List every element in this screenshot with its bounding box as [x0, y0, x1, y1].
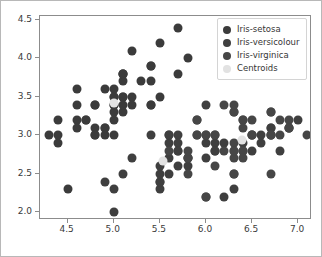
data-point: [118, 69, 127, 78]
x-tick-label: 5.5: [152, 224, 166, 234]
data-point: [229, 100, 238, 109]
data-point: [109, 208, 118, 217]
data-point: [183, 154, 192, 163]
data-point: [229, 146, 238, 155]
data-point: [266, 131, 275, 140]
data-point: [137, 77, 146, 86]
data-point: [201, 100, 210, 109]
y-tick-label: 3.5: [18, 91, 32, 101]
legend-marker-icon: [223, 65, 231, 73]
legend-item[interactable]: Iris-versicolour: [223, 36, 300, 49]
data-point: [174, 69, 183, 78]
centroid-marker: [109, 98, 118, 107]
data-point: [54, 131, 63, 140]
data-point: [174, 23, 183, 32]
legend-item-label: Centroids: [237, 64, 278, 73]
data-point: [100, 131, 109, 140]
data-point: [54, 115, 63, 124]
data-point: [109, 131, 118, 140]
y-tick-label: 2.5: [18, 168, 32, 178]
data-point: [238, 123, 247, 132]
data-point: [211, 146, 220, 155]
x-tick-mark: [297, 219, 298, 223]
data-point: [109, 115, 118, 124]
x-tick-mark: [251, 219, 252, 223]
data-point: [100, 85, 109, 94]
data-point: [72, 115, 81, 124]
data-point: [248, 115, 257, 124]
data-point: [229, 169, 238, 178]
data-point: [128, 46, 137, 55]
data-point: [248, 146, 257, 155]
data-point: [229, 185, 238, 194]
x-tick-mark: [67, 219, 68, 223]
legend: Iris-setosaIris-versicolourIris-virginic…: [217, 18, 307, 80]
legend-item[interactable]: Iris-virginica: [223, 49, 300, 62]
data-point: [220, 192, 229, 201]
data-point: [275, 131, 284, 140]
data-point: [248, 131, 257, 140]
data-point: [165, 146, 174, 155]
x-tick-label: 6.5: [244, 224, 258, 234]
y-tick-mark: [35, 19, 39, 20]
data-point: [201, 192, 210, 201]
data-point: [155, 177, 164, 186]
x-tick-mark: [113, 219, 114, 223]
data-point: [54, 139, 63, 148]
data-point: [211, 131, 220, 140]
data-point: [82, 115, 91, 124]
data-point: [100, 177, 109, 186]
data-point: [146, 77, 155, 86]
centroid-marker: [237, 135, 246, 144]
data-point: [72, 85, 81, 94]
x-tick-mark: [159, 219, 160, 223]
data-point: [72, 123, 81, 132]
legend-marker-icon: [223, 26, 231, 34]
data-point: [174, 162, 183, 171]
data-point: [63, 185, 72, 194]
data-point: [165, 131, 174, 140]
data-point: [146, 131, 155, 140]
y-tick-mark: [35, 173, 39, 174]
data-point: [294, 115, 303, 124]
data-point: [72, 100, 81, 109]
scatter-plot-figure: Iris-setosaIris-versicolourIris-virginic…: [0, 0, 322, 257]
data-point: [201, 139, 210, 148]
data-point: [183, 169, 192, 178]
data-point: [201, 131, 210, 140]
data-point: [174, 146, 183, 155]
data-point: [220, 100, 229, 109]
legend-marker-icon: [223, 39, 231, 47]
x-tick-label: 7.0: [290, 224, 304, 234]
data-point: [266, 108, 275, 117]
data-point: [284, 123, 293, 132]
data-point: [91, 100, 100, 109]
x-tick-label: 6.0: [198, 224, 212, 234]
y-tick-mark: [35, 96, 39, 97]
data-point: [45, 131, 54, 140]
x-tick-label: 5.0: [106, 224, 120, 234]
data-point: [109, 185, 118, 194]
data-point: [303, 131, 311, 140]
legend-item[interactable]: Centroids: [223, 62, 300, 75]
data-point: [192, 115, 201, 124]
y-tick-mark: [35, 134, 39, 135]
data-point: [91, 131, 100, 140]
data-point: [100, 123, 109, 132]
data-point: [229, 154, 238, 163]
data-point: [183, 54, 192, 63]
data-point: [192, 131, 201, 140]
y-tick-label: 2.0: [18, 206, 32, 216]
data-point: [183, 146, 192, 155]
legend-marker-icon: [223, 52, 231, 60]
y-tick-mark: [35, 57, 39, 58]
y-tick-label: 4.5: [18, 14, 32, 24]
data-point: [128, 154, 137, 163]
data-point: [275, 146, 284, 155]
data-point: [118, 100, 127, 109]
y-tick-mark: [35, 211, 39, 212]
data-point: [128, 100, 137, 109]
data-point: [165, 169, 174, 178]
legend-item[interactable]: Iris-setosa: [223, 23, 300, 36]
data-point: [201, 154, 210, 163]
